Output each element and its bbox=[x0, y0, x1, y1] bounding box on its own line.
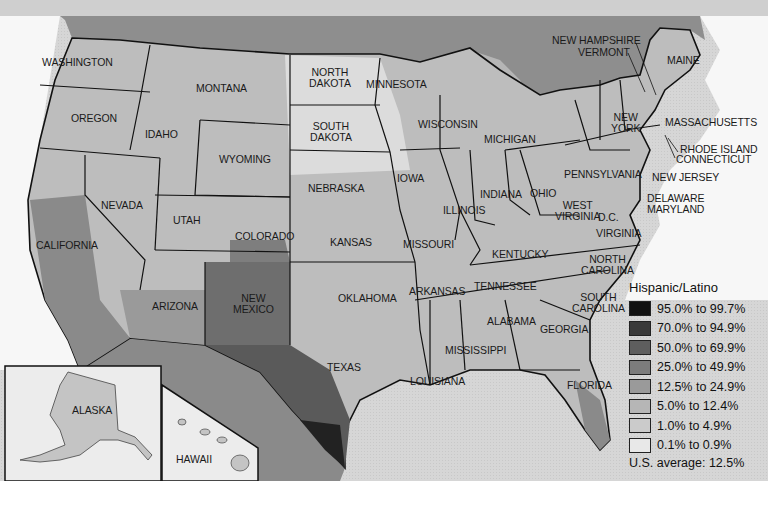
label-new-mexico: NEW MEXICO bbox=[233, 293, 274, 315]
label-maryland: MARYLAND bbox=[647, 204, 704, 215]
legend-label: 70.0% to 94.9% bbox=[657, 321, 745, 335]
hispanic-latino-map: WASHINGTON OREGON IDAHO MONTANA WYOMING … bbox=[0, 0, 768, 509]
legend-label: 12.5% to 24.9% bbox=[657, 380, 745, 394]
label-minnesota: MINNESOTA bbox=[366, 79, 427, 90]
label-mississippi: MISSISSIPPI bbox=[445, 345, 506, 356]
label-idaho: IDAHO bbox=[145, 129, 178, 140]
label-missouri: MISSOURI bbox=[403, 239, 454, 250]
label-oregon: OREGON bbox=[71, 113, 117, 124]
label-dc: D.C. bbox=[598, 212, 619, 223]
legend-item: 50.0% to 69.9% bbox=[629, 338, 768, 358]
label-new-jersey: NEW JERSEY bbox=[652, 172, 719, 183]
legend-label: 5.0% to 12.4% bbox=[657, 399, 738, 413]
legend-swatch bbox=[629, 418, 651, 433]
label-north-carolina: NORTH CAROLINA bbox=[581, 254, 634, 276]
label-kansas: KANSAS bbox=[330, 237, 372, 248]
label-south-carolina: SOUTH CAROLINA bbox=[572, 292, 625, 314]
legend-title: Hispanic/Latino bbox=[629, 280, 768, 295]
label-alabama: ALABAMA bbox=[487, 316, 536, 327]
legend-item: 12.5% to 24.9% bbox=[629, 377, 768, 397]
label-california: CALIFORNIA bbox=[36, 240, 98, 251]
label-oklahoma: OKLAHOMA bbox=[338, 293, 397, 304]
label-arkansas: ARKANSAS bbox=[409, 286, 465, 297]
label-nebraska: NEBRASKA bbox=[308, 183, 364, 194]
label-alaska: ALASKA bbox=[72, 405, 112, 416]
label-maine: MAINE bbox=[667, 55, 700, 66]
label-ohio: OHIO bbox=[530, 188, 556, 199]
label-west-virginia: WEST VIRGINIA bbox=[555, 200, 600, 222]
label-vermont: VERMONT bbox=[578, 47, 630, 58]
legend-swatch bbox=[629, 438, 651, 453]
legend-item: 5.0% to 12.4% bbox=[629, 397, 768, 417]
label-louisiana: LOUISIANA bbox=[410, 376, 465, 387]
label-pennsylvania: PENNSYLVANIA bbox=[564, 169, 642, 180]
label-virginia: VIRGINIA bbox=[596, 228, 641, 239]
label-nevada: NEVADA bbox=[101, 200, 143, 211]
label-illinois: ILLINOIS bbox=[443, 205, 485, 216]
label-south-dakota: SOUTH DAKOTA bbox=[310, 121, 352, 143]
label-wisconsin: WISCONSIN bbox=[418, 119, 478, 130]
us-average-label: U.S. average: bbox=[629, 456, 705, 470]
legend-swatch bbox=[629, 399, 651, 414]
legend-item: 1.0% to 4.9% bbox=[629, 416, 768, 436]
label-georgia: GEORGIA bbox=[540, 324, 588, 335]
label-iowa: IOWA bbox=[397, 173, 424, 184]
top-strip bbox=[0, 0, 768, 16]
us-average: U.S. average: 12.5% bbox=[629, 456, 768, 470]
legend-swatch bbox=[629, 321, 651, 336]
label-north-dakota: NORTH DAKOTA bbox=[309, 67, 351, 89]
legend-item: 0.1% to 0.9% bbox=[629, 436, 768, 456]
label-wyoming: WYOMING bbox=[219, 154, 271, 165]
label-hawaii: HAWAII bbox=[176, 454, 212, 465]
label-indiana: INDIANA bbox=[480, 189, 522, 200]
arizona-shading bbox=[120, 290, 205, 345]
label-texas: TEXAS bbox=[327, 362, 361, 373]
legend-swatch bbox=[629, 360, 651, 375]
label-tennessee: TENNESSEE bbox=[474, 281, 537, 292]
legend-label: 1.0% to 4.9% bbox=[657, 419, 731, 433]
us-average-value: 12.5% bbox=[709, 456, 744, 470]
bottom-strip bbox=[0, 481, 768, 509]
legend-item: 95.0% to 99.7% bbox=[629, 299, 768, 319]
legend-item: 70.0% to 94.9% bbox=[629, 319, 768, 339]
legend-label: 50.0% to 69.9% bbox=[657, 341, 745, 355]
label-new-hampshire: NEW HAMPSHIRE bbox=[552, 35, 641, 46]
label-massachusetts: MASSACHUSETTS bbox=[665, 117, 757, 128]
label-washington: WASHINGTON bbox=[42, 57, 113, 68]
label-montana: MONTANA bbox=[196, 83, 247, 94]
legend-label: 25.0% to 49.9% bbox=[657, 360, 745, 374]
legend-swatch bbox=[629, 301, 651, 316]
legend-label: 0.1% to 0.9% bbox=[657, 438, 731, 452]
label-connecticut: CONNECTICUT bbox=[676, 154, 751, 165]
label-florida: FLORIDA bbox=[567, 380, 612, 391]
label-michigan: MICHIGAN bbox=[484, 134, 536, 145]
legend-swatch bbox=[629, 379, 651, 394]
label-new-york: NEW YORK bbox=[611, 112, 640, 134]
label-arizona: ARIZONA bbox=[152, 301, 198, 312]
label-kentucky: KENTUCKY bbox=[492, 249, 548, 260]
legend: Hispanic/Latino 95.0% to 99.7% 70.0% to … bbox=[629, 280, 768, 470]
label-utah: UTAH bbox=[173, 215, 200, 226]
legend-label: 95.0% to 99.7% bbox=[657, 302, 745, 316]
legend-item: 25.0% to 49.9% bbox=[629, 358, 768, 378]
label-colorado: COLORADO bbox=[235, 231, 294, 242]
legend-swatch bbox=[629, 340, 651, 355]
